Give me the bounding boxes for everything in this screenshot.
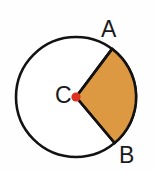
center-point-dot: [71, 92, 80, 101]
point-label-b: B: [119, 144, 134, 167]
circle-sector-figure: A B C: [0, 0, 155, 172]
point-label-a: A: [101, 18, 116, 41]
point-label-c: C: [55, 84, 72, 107]
